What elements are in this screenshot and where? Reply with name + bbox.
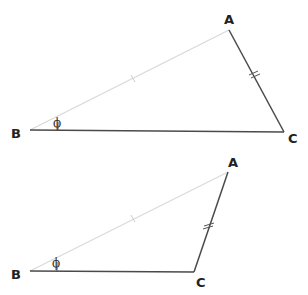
- vertex-label-a-top: A: [224, 12, 234, 27]
- vertex-label-c-bottom: C: [196, 275, 206, 290]
- side-bc-top: [30, 130, 284, 132]
- vertex-label-b-bottom: B: [11, 267, 21, 282]
- side-bc-bottom: [30, 271, 194, 272]
- triangle-bottom: ϕ A B C: [11, 155, 238, 290]
- side-ac-top: [229, 30, 284, 132]
- side-ab-top: [30, 30, 229, 130]
- vertex-label-c-top: C: [288, 131, 298, 146]
- angle-phi-top: ϕ: [53, 116, 61, 130]
- vertex-label-b-top: B: [11, 126, 21, 141]
- triangle-top: ϕ A B C: [11, 12, 298, 146]
- angle-phi-bottom: ϕ: [52, 256, 60, 270]
- tick-double-ac-bottom-1: [204, 223, 214, 226]
- vertex-label-a-bottom: A: [228, 155, 238, 170]
- triangle-diagram: ϕ A B C ϕ A B C: [0, 0, 308, 295]
